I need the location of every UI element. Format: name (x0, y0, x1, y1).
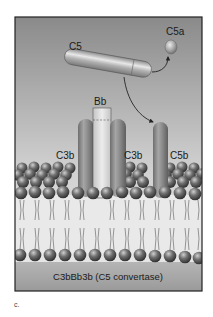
label-c3b-right: C3b (124, 150, 143, 161)
c5a-fragment (165, 40, 177, 54)
figure-caption: C3bBb3b (C5 convertase) (53, 271, 163, 282)
c3b-left-protein (78, 119, 94, 197)
label-c5: C5 (69, 41, 82, 52)
label-c3b-left: C3b (56, 150, 75, 161)
panel-letter: c. (14, 301, 19, 308)
label-bb: Bb (94, 96, 107, 107)
diagram-panel: C5 C5a Bb C3b C3b C5b C3bBb3b (C5 conver… (12, 17, 208, 291)
bb-protein (93, 108, 111, 198)
c5-convertase-diagram: C5 C5a Bb C3b C3b C5b C3bBb3b (C5 conver… (0, 0, 213, 317)
bilayer-core (15, 195, 202, 255)
label-c5a: C5a (166, 26, 185, 37)
label-c5b: C5b (170, 150, 189, 161)
